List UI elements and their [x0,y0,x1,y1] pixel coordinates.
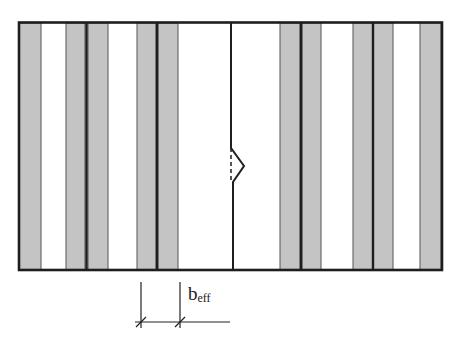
strip-7 [302,23,321,270]
dimension-beff [135,282,230,328]
strip-2 [66,23,85,270]
strip-3 [88,23,108,270]
effective-width-diagram [0,0,460,352]
strip-5 [158,23,178,270]
beff-label: beff [188,283,211,306]
strip-4 [137,23,156,270]
strip-8 [353,23,373,270]
reinforcement-lines [87,23,374,270]
strip-9 [373,23,393,270]
crack [231,23,244,270]
strip-6 [280,23,300,270]
strip-10 [420,23,441,270]
strip-1 [19,23,41,270]
